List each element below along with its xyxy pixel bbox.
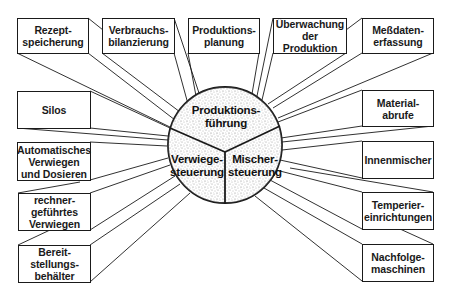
box-rechnergefuehrtes-verwiegen: rechner- geführtes Verwiegen bbox=[18, 193, 91, 231]
box-rezeptspeicherung: Rezept- speicherung bbox=[17, 18, 89, 54]
box-verbrauchsbilanzierung: Verbrauchs- bilanzierung bbox=[102, 18, 175, 54]
box-produktionsplanung: Produktions- planung bbox=[188, 18, 260, 54]
box-nachfolgemaschinen: Nachfolge- maschinen bbox=[362, 244, 434, 282]
box-temperiereinrichtungen: Temperier- einrichtungen bbox=[362, 192, 434, 230]
segment-produktionsfuehrung: Produktions- führung bbox=[188, 104, 264, 130]
box-innenmischer: Innenmischer bbox=[362, 141, 434, 179]
box-ueberwachung-der-produktion: Überwachung der Produktion bbox=[273, 18, 347, 54]
box-messdatenerfassung: Meßdaten- erfassung bbox=[362, 18, 434, 54]
segment-verwiegesteuerung: Verwiege- steuerung bbox=[166, 153, 228, 179]
box-bereitstellungsbehaelter: Bereit- stellungs- behälter bbox=[18, 245, 91, 283]
box-silos: Silos bbox=[17, 91, 91, 129]
box-materialabrufe: Material- abrufe bbox=[362, 90, 434, 127]
box-automatisches-verwiegen: Automatisches Verwiegen und Dosieren bbox=[17, 142, 91, 181]
segment-mischersteuerung: Mischer- steuerung bbox=[225, 153, 285, 179]
